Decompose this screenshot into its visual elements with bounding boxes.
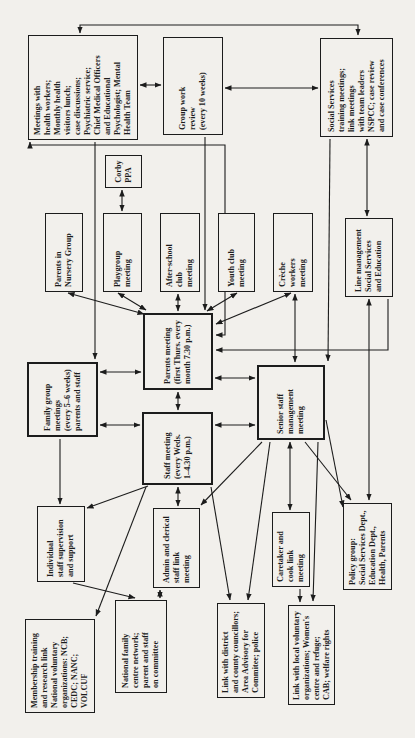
node-policy-group: Policy group: Social Services Dept., Edu… xyxy=(343,503,392,590)
node-link-district: Link with district and county councillor… xyxy=(217,603,265,698)
node-national-family: National family centre network; parent a… xyxy=(115,600,167,693)
connector-line-mgmt-parents-meeting xyxy=(216,299,388,350)
connector-youth-club-parents-meeting xyxy=(207,293,237,311)
node-link-district-label: Link with district and county councillor… xyxy=(221,606,261,693)
connector-senior-staff-link-local xyxy=(313,442,318,601)
node-line-mgmt-label: Line management Social Services and Educ… xyxy=(354,221,384,292)
connector-creche-parents-meeting xyxy=(216,293,291,324)
connector-staff-meeting-link-district xyxy=(211,487,230,600)
node-senior-staff-label: Senior staff management meeting xyxy=(276,369,306,434)
node-creche-label: Crèche workers meeting xyxy=(278,216,308,287)
node-meetings-health-label: Meetings with health workers; Monthly he… xyxy=(33,38,133,135)
node-individual-staff: Individual staff supervision and support xyxy=(37,506,85,582)
node-after-school: After-school club meeting xyxy=(160,213,200,292)
connector-staff-meeting-membership xyxy=(96,487,146,616)
node-youth-club-label: Youth club meeting xyxy=(227,216,247,287)
node-parents-meeting: Parents meeting (first Thurs. every mont… xyxy=(143,313,213,390)
node-staff-meeting-label: Staff meeting (every Weds. 1–4.30 p.m.) xyxy=(163,416,193,479)
scanned-diagram-page: Meetings with health workers; Monthly he… xyxy=(0,0,415,738)
node-policy-group-label: Policy group: Social Services Dept., Edu… xyxy=(348,506,388,585)
node-meetings-health: Meetings with health workers; Monthly he… xyxy=(28,35,138,140)
node-youth-club: Youth club meeting xyxy=(218,213,255,292)
node-admin-clerical: Admin and clerical staff link meeting xyxy=(153,508,200,588)
node-creche: Crèche workers meeting xyxy=(273,213,313,292)
connector-parents-nursery-parents-meeting xyxy=(68,293,144,314)
node-link-local-label: Link with local voluntary organizations;… xyxy=(292,608,332,700)
node-family-group: Family group meetings (every 5–6 weeks) … xyxy=(27,362,98,437)
node-staff-meeting: Staff meeting (every Weds. 1–4.30 p.m.) xyxy=(142,412,213,485)
node-parents-meeting-label: Parents meeting (first Thurs. every mont… xyxy=(163,317,193,384)
node-membership-label: Membership training and research link Na… xyxy=(30,622,90,708)
node-group-work-label: Group work review (every 10 weeks) xyxy=(178,40,208,130)
node-corby-ppa: Corby PPA xyxy=(105,155,142,188)
node-caretaker-label: Caretaker and cook link meeting xyxy=(276,515,306,582)
node-playgroup: Playgroup meeting xyxy=(103,213,142,292)
node-admin-clerical-label: Admin and clerical staff link meeting xyxy=(162,511,192,583)
node-group-work: Group work review (every 10 weeks) xyxy=(163,37,223,135)
node-corby-ppa-label: Corby PPA xyxy=(114,160,134,182)
node-senior-staff: Senior staff management meeting xyxy=(257,365,325,440)
node-parents-nursery-label: Parents in Nursery Group xyxy=(54,216,74,287)
connector-meetings-health-social-services xyxy=(80,25,358,35)
connector-social-services-senior-staff xyxy=(328,139,330,361)
node-national-family-label: National family centre network; parent a… xyxy=(121,603,161,688)
connector-senior-staff-policy-group-a xyxy=(305,442,351,500)
connector-senior-staff-policy-group-b xyxy=(326,420,343,507)
node-parents-nursery: Parents in Nursery Group xyxy=(45,213,83,292)
node-family-group-label: Family group meetings (every 5–6 weeks) … xyxy=(43,366,83,431)
node-social-services: Social Services training meetings; link … xyxy=(320,38,393,137)
node-playgroup-label: Playgroup meeting xyxy=(113,216,133,287)
node-membership: Membership training and research link Na… xyxy=(25,619,95,713)
connector-senior-staff-link-district xyxy=(248,442,270,600)
node-social-services-label: Social Services training meetings; link … xyxy=(327,41,387,132)
node-line-mgmt: Line management Social Services and Educ… xyxy=(345,218,393,297)
node-link-local: Link with local voluntary organizations;… xyxy=(288,605,335,705)
node-individual-staff-label: Individual staff supervision and support xyxy=(46,509,76,577)
node-caretaker: Caretaker and cook link meeting xyxy=(272,512,310,587)
node-after-school-label: After-school club meeting xyxy=(165,216,195,287)
rotated-diagram-stage: Meetings with health workers; Monthly he… xyxy=(0,0,415,738)
